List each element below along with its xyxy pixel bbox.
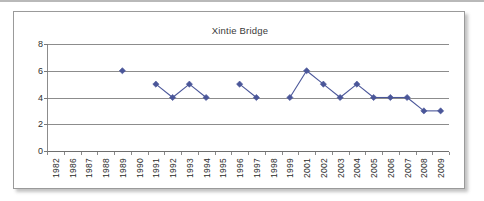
series-segment xyxy=(156,84,173,97)
category-tick-mark-2 xyxy=(81,152,82,155)
category-tick-label-2004: 2004 xyxy=(352,158,362,178)
category-tick-mark-12 xyxy=(248,152,249,155)
data-point-2009-3 xyxy=(438,108,444,114)
category-tick-label-2005: 2005 xyxy=(369,158,379,178)
category-tick-label-2003: 2003 xyxy=(336,158,346,178)
value-tick-label-0: 0 xyxy=(19,146,43,156)
category-tick-label-1993: 1993 xyxy=(185,158,195,178)
category-tick-label-2001: 2001 xyxy=(302,158,312,178)
series-segment xyxy=(240,84,257,97)
category-tick-label-1989: 1989 xyxy=(118,158,128,178)
category-tick-mark-14 xyxy=(282,152,283,155)
category-tick-mark-11 xyxy=(231,152,232,155)
category-tick-mark-1 xyxy=(64,152,65,155)
data-point-2006-4 xyxy=(387,94,393,100)
series-segment xyxy=(357,84,374,97)
category-tick-label-1997: 1997 xyxy=(252,158,262,178)
category-tick-mark-19 xyxy=(365,152,366,155)
top-rule xyxy=(0,0,484,2)
value-tick-label-2: 2 xyxy=(19,119,43,129)
series-segment xyxy=(189,84,206,97)
series-segment xyxy=(290,71,307,98)
category-tick-label-1986: 1986 xyxy=(68,158,78,178)
category-tick-label-1994: 1994 xyxy=(202,158,212,178)
category-tick-label-2009: 2009 xyxy=(436,158,446,178)
category-tick-mark-24 xyxy=(449,152,450,155)
category-tick-label-1998: 1998 xyxy=(269,158,279,178)
category-tick-label-2002: 2002 xyxy=(319,158,329,178)
category-tick-mark-20 xyxy=(382,152,383,155)
category-tick-mark-18 xyxy=(349,152,350,155)
category-tick-label-2006: 2006 xyxy=(386,158,396,178)
category-tick-mark-5 xyxy=(131,152,132,155)
category-tick-mark-6 xyxy=(148,152,149,155)
data-point-1999-4 xyxy=(287,94,293,100)
category-tick-mark-4 xyxy=(114,152,115,155)
series-segment xyxy=(340,84,357,97)
value-tick-label-6: 6 xyxy=(19,66,43,76)
chart-figure: Xintie Bridge 02468 19821986198719881989… xyxy=(13,11,465,189)
category-tick-mark-17 xyxy=(332,152,333,155)
series-segment xyxy=(407,98,424,111)
category-tick-mark-0 xyxy=(47,152,48,155)
plot-area: 02468 1982198619871988198919901991199219… xyxy=(47,44,449,152)
category-tick-label-1988: 1988 xyxy=(101,158,111,178)
category-tick-label-1996: 1996 xyxy=(235,158,245,178)
category-tick-mark-8 xyxy=(181,152,182,155)
data-point-1989-6 xyxy=(119,68,125,74)
category-tick-mark-15 xyxy=(298,152,299,155)
category-tick-mark-3 xyxy=(97,152,98,155)
category-tick-mark-9 xyxy=(198,152,199,155)
value-tick-label-4: 4 xyxy=(19,93,43,103)
category-tick-label-2008: 2008 xyxy=(419,158,429,178)
category-tick-mark-23 xyxy=(432,152,433,155)
series-segment xyxy=(323,84,340,97)
category-tick-mark-21 xyxy=(399,152,400,155)
chart-title: Xintie Bridge xyxy=(14,25,466,36)
category-tick-label-1992: 1992 xyxy=(168,158,178,178)
category-tick-mark-7 xyxy=(164,152,165,155)
category-tick-mark-10 xyxy=(215,152,216,155)
category-tick-label-1990: 1990 xyxy=(135,158,145,178)
category-tick-label-1995: 1995 xyxy=(218,158,228,178)
series-segment xyxy=(307,71,324,84)
category-tick-label-1999: 1999 xyxy=(285,158,295,178)
category-tick-label-1991: 1991 xyxy=(151,158,161,178)
category-tick-mark-16 xyxy=(315,152,316,155)
category-tick-label-2007: 2007 xyxy=(403,158,413,178)
category-tick-mark-22 xyxy=(416,152,417,155)
series-line-xintie-bridge xyxy=(47,44,449,152)
category-tick-mark-13 xyxy=(265,152,266,155)
series-segment xyxy=(173,84,190,97)
category-tick-label-1987: 1987 xyxy=(84,158,94,178)
category-tick-label-1982: 1982 xyxy=(51,158,61,178)
value-tick-label-8: 8 xyxy=(19,39,43,49)
